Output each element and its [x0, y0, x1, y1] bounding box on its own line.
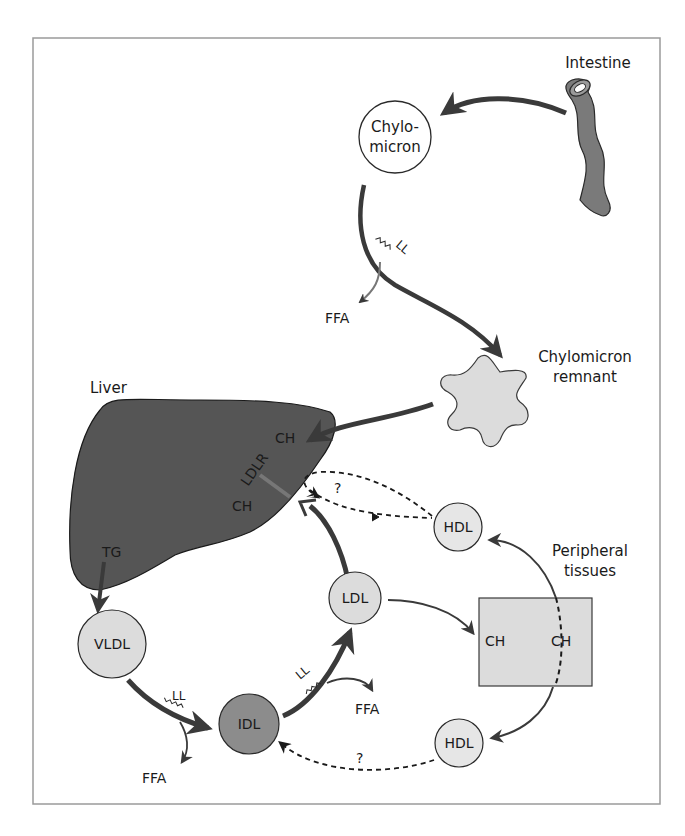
chylomicron-label-2: micron [369, 138, 421, 156]
arrow-tissue-to-hdl-bottom [492, 687, 553, 738]
ffa-idl-label: FFA [355, 701, 380, 717]
liver-ch-bottom-label: CH [232, 498, 252, 514]
remnant-label-1: Chylomicron [538, 348, 632, 366]
ll-chylo-label: LL [393, 238, 412, 258]
liver-shape [70, 399, 336, 590]
chylomicron-label-1: Chylo- [371, 118, 419, 136]
question-hdl-idl: ? [356, 750, 363, 766]
ldl-label: LDL [342, 590, 369, 606]
hdl-top-label: HDL [443, 519, 472, 535]
question-liver-hdl: ? [334, 480, 341, 496]
ffa-vldl-label: FFA [142, 770, 167, 786]
dashed-arrow-hdl-to-liver [304, 472, 432, 516]
liver-ch-top-label: CH [275, 430, 295, 446]
ll-vldl-label: LL [172, 689, 186, 703]
arrow-ffa-vldl [180, 722, 187, 762]
chylomicron-remnant-shape [441, 355, 528, 446]
idl-label: IDL [238, 716, 261, 732]
ll-idl-label: LL [293, 663, 312, 683]
tissue-ch-left-label: CH [485, 633, 505, 649]
intestine-label: Intestine [565, 54, 631, 72]
vldl-label: VLDL [94, 636, 130, 652]
peripheral-label-2: tissues [564, 562, 616, 580]
tg-label: TG [101, 544, 121, 560]
arrow-vldl-to-idl [128, 680, 208, 728]
remnant-label-2: remnant [553, 368, 617, 386]
arrow-tissue-to-hdl-top [490, 540, 556, 598]
chylomicron-node [359, 101, 431, 173]
arrow-ldl-to-liver [310, 506, 348, 580]
arrow-intestine-to-chylomicron [444, 99, 566, 113]
arrow-chylomicron-to-remnant [360, 185, 500, 355]
liver-label: Liver [90, 379, 128, 397]
intestine-icon [566, 76, 610, 215]
lipase-zigzag-icon [375, 236, 392, 250]
arrow-ffa-idl [327, 679, 372, 690]
ffa-chylo-label: FFA [325, 310, 350, 326]
hdl-bottom-label: HDL [444, 735, 473, 751]
arrow-idl-to-ldl [283, 632, 350, 716]
lipoprotein-metabolism-diagram: Intestine Chylo- micron LL FFA Chylomicr… [0, 0, 685, 836]
arrow-ldl-to-tissues [388, 600, 473, 633]
peripheral-label-1: Peripheral [552, 542, 628, 560]
dashed-arrow-liver-to-hdl [310, 490, 432, 518]
